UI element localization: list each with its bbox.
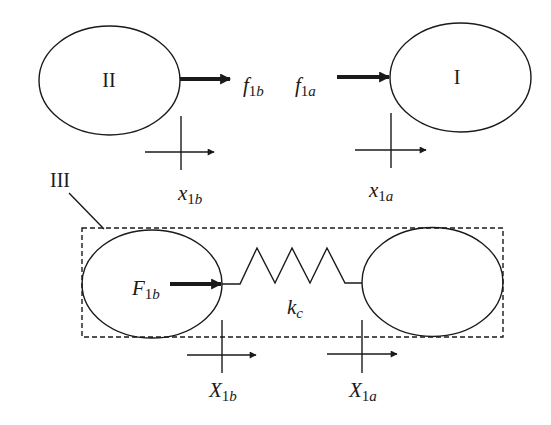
substructure-coupling-diagram: II f1b x1b I f1a x1a III	[0, 0, 551, 425]
subsystem-iii: III kc F1b	[50, 169, 503, 338]
force-f1a: f1a	[295, 73, 389, 99]
subsystem-iii-boundary	[82, 228, 503, 337]
force-F1b: F1b	[131, 276, 221, 302]
body-i: I	[390, 23, 531, 132]
displacement-X1a: X1a	[327, 320, 397, 404]
displacement-x1a-label: x1a	[368, 178, 393, 204]
displacement-X1b: X1b	[187, 320, 256, 404]
body-ii: II	[39, 26, 180, 135]
coupling-spring-icon	[222, 248, 362, 284]
body-i-ellipse	[390, 23, 531, 132]
body-i-label: I	[454, 66, 461, 88]
force-F1b-label: F1b	[131, 276, 160, 302]
body-ii-label: II	[102, 69, 115, 91]
displacement-X1a-label: X1a	[348, 378, 377, 404]
spring-kc-label: kc	[287, 295, 303, 321]
force-f1b: f1b	[180, 73, 264, 99]
displacement-x1b-label: x1b	[177, 181, 203, 207]
coupled-body-a-ellipse	[362, 228, 503, 337]
force-f1b-label: f1b	[243, 73, 264, 99]
displacement-X1b-label: X1b	[208, 378, 237, 404]
subsystem-iii-label: III	[50, 169, 70, 191]
displacement-x1b: x1b	[145, 116, 214, 207]
displacement-x1a: x1a	[355, 113, 426, 204]
subsystem-iii-leader-line	[69, 193, 104, 229]
force-f1a-label: f1a	[295, 73, 316, 99]
